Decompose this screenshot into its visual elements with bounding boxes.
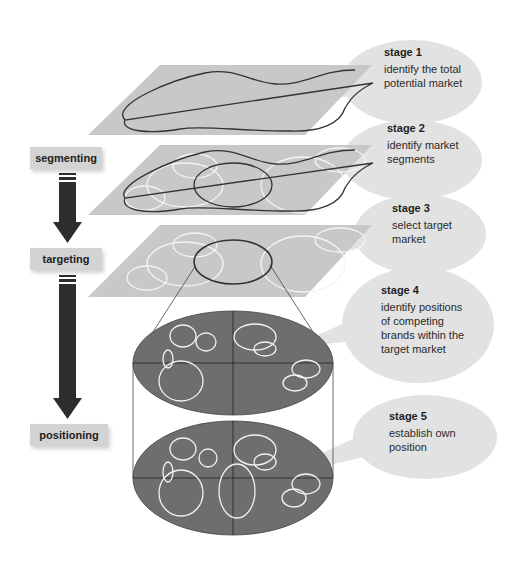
stage-5-text: stage 5 establish own position <box>389 409 456 454</box>
plane-market-segments <box>88 145 373 215</box>
arrow-segmenting-to-targeting <box>53 173 82 243</box>
own-position-map <box>133 421 333 535</box>
stage-1-text: stage 1 identify the total potential mar… <box>384 45 462 90</box>
positioning-cylinder <box>133 311 333 535</box>
stage-1-title: stage 1 <box>384 45 462 59</box>
stage-3-title: stage 3 <box>392 201 452 215</box>
stage-1-description: identify the total potential market <box>384 62 462 90</box>
step-label-targeting: targeting <box>30 248 102 270</box>
stage-5-description: establish own position <box>389 426 456 454</box>
step-label-segmenting: segmenting <box>30 147 102 169</box>
stage-3-description: select target market <box>392 218 452 246</box>
arrow-targeting-to-positioning <box>53 275 82 419</box>
competitor-positions-map <box>133 311 333 415</box>
stage-4-title: stage 4 <box>381 283 464 297</box>
stage-4-description: identify positions of competing brands w… <box>381 300 464 356</box>
stage-2-title: stage 2 <box>387 121 459 135</box>
plane-target-market <box>88 225 372 297</box>
stage-3-text: stage 3 select target market <box>392 201 452 246</box>
step-label-positioning: positioning <box>30 424 108 446</box>
stage-2-description: identify market segments <box>387 138 459 166</box>
plane-total-market <box>88 65 373 135</box>
stage-5-title: stage 5 <box>389 409 456 423</box>
stage-4-text: stage 4 identify positions of competing … <box>381 283 464 356</box>
stage-2-text: stage 2 identify market segments <box>387 121 459 166</box>
